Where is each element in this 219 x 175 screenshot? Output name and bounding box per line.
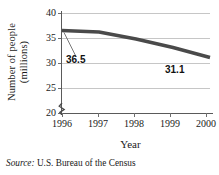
- x-axis-line: [61, 113, 213, 114]
- annotation-leader-line: [64, 33, 76, 57]
- data-label-36-5: 36.5: [66, 55, 85, 65]
- source-label: Source:: [6, 158, 35, 168]
- x-tick-label-1998: 1998: [124, 119, 144, 129]
- x-tick-mark-1998: [134, 113, 135, 117]
- x-tick-mark-1997: [98, 113, 99, 117]
- y-tick-label-20: 20: [46, 108, 56, 118]
- x-tick-mark-1996: [62, 113, 63, 117]
- source-note: Source: U.S. Bureau of the Census: [6, 158, 136, 168]
- x-tick-label-1997: 1997: [88, 119, 108, 129]
- y-tick-label-40: 40: [46, 8, 56, 18]
- y-tick-label-30: 30: [46, 58, 56, 68]
- y-axis-title-line2: (millions): [17, 23, 29, 101]
- x-tick-label-2000: 2000: [196, 119, 216, 129]
- y-axis-title: Number of people (millions): [0, 6, 34, 118]
- y-axis-title-line1: Number of people: [6, 23, 18, 101]
- chart-figure: Number of people (millions) 40 35 30 25 …: [0, 0, 219, 175]
- x-tick-mark-2000: [206, 113, 207, 117]
- y-tick-label-35: 35: [46, 33, 56, 43]
- x-axis-title: Year: [0, 138, 219, 150]
- source-value: U.S. Bureau of the Census: [37, 158, 136, 168]
- y-tick-label-25: 25: [46, 83, 56, 93]
- x-tick-label-1996: 1996: [52, 119, 72, 129]
- data-label-31-1: 31.1: [165, 65, 184, 75]
- x-tick-label-1999: 1999: [160, 119, 180, 129]
- x-tick-mark-1999: [170, 113, 171, 117]
